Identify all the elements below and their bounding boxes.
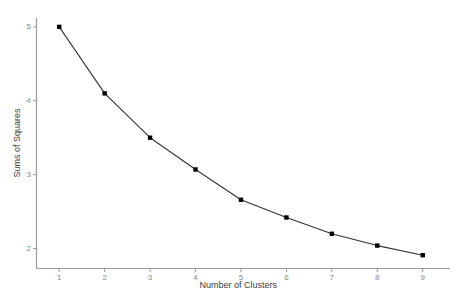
x-tick-label: 2	[102, 274, 106, 282]
data-point-marker	[148, 136, 152, 140]
x-tick-label: 3	[148, 274, 152, 282]
elbow-plot-figure: 123456789 2345 Number of Clusters Sums o…	[0, 0, 462, 303]
data-point-marker	[375, 243, 379, 247]
data-point-marker	[57, 25, 61, 29]
data-point-marker	[330, 232, 334, 236]
x-tick-label: 9	[421, 274, 425, 282]
data-point-marker	[284, 215, 288, 219]
x-tick-label: 4	[193, 274, 197, 282]
plot-background	[0, 0, 462, 303]
y-tick-label: 5	[27, 23, 31, 31]
y-axis-title: Sums of Squares	[13, 109, 22, 178]
data-point-marker	[421, 253, 425, 257]
x-tick-label: 6	[284, 274, 288, 282]
x-tick-label: 8	[375, 274, 379, 282]
x-tick-label: 1	[57, 274, 61, 282]
data-point-marker	[102, 91, 106, 95]
y-tick-label: 2	[27, 245, 31, 253]
data-point-marker	[239, 198, 243, 202]
x-tick-label: 7	[330, 274, 334, 282]
y-tick-label: 4	[27, 97, 31, 105]
plot-area	[0, 0, 462, 303]
x-axis-title: Number of Clusters	[199, 281, 277, 290]
data-point-marker	[193, 167, 197, 171]
y-tick-label: 3	[27, 171, 31, 179]
